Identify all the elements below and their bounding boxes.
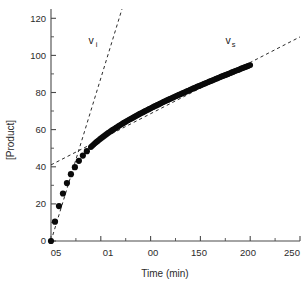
vi-annotation-label: v: [88, 34, 94, 46]
y-axis-title: [Product]: [5, 120, 16, 160]
data-point: [52, 219, 58, 225]
data-point: [56, 203, 62, 209]
data-point: [68, 171, 74, 177]
data-point: [60, 190, 66, 196]
y-tick-label: 100: [30, 50, 46, 61]
x-tick-label: 250: [284, 247, 300, 258]
x-tick-label: 00: [148, 247, 159, 258]
y-tick-label: 60: [35, 124, 46, 135]
y-tick-label: 120: [30, 13, 46, 24]
y-tick-label: 20: [35, 198, 46, 209]
data-point: [247, 62, 253, 68]
chart-canvas: 0 20 40 60 80 100 120 05 01 00: [0, 0, 307, 287]
data-point: [64, 180, 70, 186]
data-point: [76, 158, 82, 164]
x-tick-label: 200: [240, 247, 256, 258]
data-point: [72, 164, 78, 170]
y-tick-label: 40: [35, 161, 46, 172]
x-tick-label: 05: [51, 247, 62, 258]
y-tick-label: 0: [41, 235, 46, 246]
x-tick-label: 01: [103, 247, 114, 258]
burst-kinetics-chart: 0 20 40 60 80 100 120 05 01 00: [0, 0, 307, 287]
vs-annotation: v s: [225, 34, 235, 49]
y-axis-ticks: [51, 18, 56, 241]
data-point: [48, 238, 54, 244]
vs-annotation-subscript: s: [232, 40, 236, 49]
vs-annotation-label: v: [225, 34, 231, 46]
y-axis-tick-labels: 0 20 40 60 80 100 120: [30, 13, 46, 247]
x-axis-title: Time (min): [141, 268, 188, 279]
x-axis-tick-labels: 05 01 00 150 200 250: [51, 247, 300, 258]
vi-annotation-subscript: i: [96, 40, 98, 49]
x-axis-ticks: [51, 236, 300, 241]
x-tick-label: 150: [191, 247, 207, 258]
data-point-group: [48, 62, 253, 244]
y-tick-label: 80: [35, 87, 46, 98]
vi-annotation: v i: [88, 34, 97, 49]
